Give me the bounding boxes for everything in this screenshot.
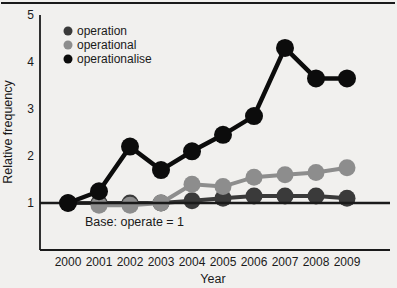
y-tick-label-1: 1 [27,196,34,210]
point-operation-2004 [184,192,201,209]
point-operational-2004 [184,176,201,193]
point-operationalise-2009 [338,69,356,87]
legend-label-operationalise: operationalise [77,52,152,66]
x-tick-label-2008: 2008 [303,255,330,269]
point-operationalise-2001 [90,182,108,200]
legend-swatch-operationalise [64,55,73,64]
point-operation-2009 [339,190,356,207]
x-axis-title: Year [200,272,225,286]
x-tick-label-2005: 2005 [210,255,237,269]
y-axis-title: Relative frequency [1,79,15,183]
x-tick-label-2007: 2007 [272,255,299,269]
series-line-operationalise [68,48,347,203]
legend: operationoperationaloperationalise [64,24,153,66]
x-tick-label-2001: 2001 [86,255,113,269]
y-tick-label-2: 2 [27,149,34,163]
x-tick-label-2004: 2004 [179,255,206,269]
y-tick-label-4: 4 [27,55,34,69]
legend-label-operational: operational [77,38,136,52]
point-operationalise-2007 [276,39,294,57]
y-tick-label-5: 5 [27,8,34,22]
baseline-annotation: Base: operate = 1 [85,215,184,229]
point-operationalise-2002 [121,138,139,156]
point-operationalise-2000 [59,194,77,212]
figure-page: 1234520002001200220032004200520062007200… [0,0,397,288]
y-tick-label-3: 3 [27,102,34,116]
point-operational-2007 [277,166,294,183]
point-operationalise-2005 [214,126,232,144]
x-tick-label-2000: 2000 [55,255,82,269]
legend-label-operation: operation [77,24,127,38]
point-operational-2009 [339,159,356,176]
point-operationalise-2004 [183,142,201,160]
legend-swatch-operational [64,41,73,50]
legend-swatch-operation [64,27,73,36]
point-operationalise-2003 [152,161,170,179]
point-operationalise-2008 [307,69,325,87]
point-operationalise-2006 [245,107,263,125]
x-tick-label-2009: 2009 [334,255,361,269]
line-chart: 1234520002001200220032004200520062007200… [0,0,397,288]
x-tick-label-2003: 2003 [148,255,175,269]
x-tick-label-2006: 2006 [241,255,268,269]
x-tick-label-2002: 2002 [117,255,144,269]
point-operational-2008 [308,164,325,181]
point-operational-2005 [215,178,232,195]
point-operational-2006 [246,169,263,186]
point-operational-2002 [122,197,139,214]
